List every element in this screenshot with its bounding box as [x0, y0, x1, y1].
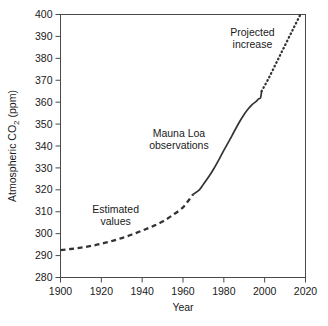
y-tick-label: 310	[35, 205, 53, 217]
y-tick-label: 400	[35, 8, 53, 20]
annotation-line: Projected	[230, 26, 275, 38]
annotation-line: Mauna Loa	[153, 127, 206, 139]
x-tick-label: 1940	[130, 285, 154, 297]
y-tick-label: 370	[35, 74, 53, 86]
y-tick-label: 350	[35, 118, 53, 130]
x-tick-label: 2020	[294, 285, 318, 297]
x-tick-label: 1980	[212, 285, 236, 297]
y-tick-label: 390	[35, 30, 53, 42]
y-tick-label: 300	[35, 227, 53, 239]
y-tick-label: 330	[35, 162, 53, 174]
y-tick-label: 340	[35, 140, 53, 152]
y-tick-label: 320	[35, 183, 53, 195]
y-axis-title: Atmospheric CO2 (ppm)	[6, 90, 21, 202]
y-tick-label: 290	[35, 249, 53, 261]
x-axis-title: Year	[172, 301, 194, 313]
y-axis-title-lead: Atmospheric CO	[6, 125, 18, 202]
y-tick-label: 360	[35, 96, 53, 108]
annotation-line: Estimated	[92, 203, 139, 215]
annotation-line: observations	[149, 139, 209, 151]
chart-canvas: 2802903003103203303403503603703803904001…	[0, 0, 328, 326]
x-tick-label: 1960	[171, 285, 195, 297]
y-tick-label: 380	[35, 52, 53, 64]
x-tick-label: 1920	[90, 285, 114, 297]
annotation-line: values	[100, 215, 130, 227]
x-tick-label: 2000	[253, 285, 277, 297]
co2-chart: 2802903003103203303403503603703803904001…	[0, 0, 328, 326]
x-tick-label: 1900	[49, 285, 73, 297]
annotation-projected-increase: Projectedincrease	[230, 26, 275, 50]
annotation-mauna-loa-observations: Mauna Loaobservations	[149, 127, 209, 151]
annotation-estimated-values: Estimatedvalues	[92, 203, 139, 227]
annotation-line: increase	[233, 38, 273, 50]
y-tick-label: 280	[35, 271, 53, 283]
y-axis-title-trail: (ppm)	[6, 90, 18, 120]
